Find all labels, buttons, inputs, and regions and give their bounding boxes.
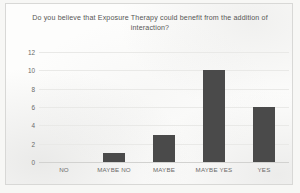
bar[interactable] — [203, 70, 225, 162]
bar[interactable] — [253, 107, 275, 162]
bar-series — [39, 52, 289, 162]
chart-container: Do you believe that Exposure Therapy cou… — [5, 3, 293, 185]
y-axis-tick-label: 4 — [31, 122, 35, 129]
x-axis-tick-label: MAYBE NO — [89, 166, 139, 173]
chart-title: Do you believe that Exposure Therapy cou… — [28, 13, 272, 33]
x-axis-tick-label: MAYBE — [139, 166, 189, 173]
y-axis-tick-label: 8 — [31, 85, 35, 92]
chart-title-line-1: Do you believe that Exposure Therapy cou… — [32, 14, 231, 22]
bar-slot — [39, 52, 89, 162]
bar[interactable] — [153, 135, 175, 163]
bar-slot — [89, 52, 139, 162]
x-axis-tick-label: MAYBE YES — [189, 166, 239, 173]
y-axis-tick-label: 0 — [31, 159, 35, 166]
x-axis-tick-label: NO — [39, 166, 89, 173]
bar[interactable] — [103, 153, 125, 162]
bar-slot — [139, 52, 189, 162]
plot-area: 121086420 — [39, 52, 289, 162]
x-axis-tick-label: YES — [239, 166, 289, 173]
bar-slot — [239, 52, 289, 162]
gridline — [39, 162, 289, 163]
y-axis-tick-label: 6 — [31, 104, 35, 111]
y-axis-tick-label: 12 — [28, 49, 35, 56]
x-axis-labels: NOMAYBE NOMAYBEMAYBE YESYES — [39, 166, 289, 173]
y-axis-tick-label: 2 — [31, 140, 35, 147]
y-axis-tick-label: 10 — [28, 67, 35, 74]
bar-slot — [189, 52, 239, 162]
